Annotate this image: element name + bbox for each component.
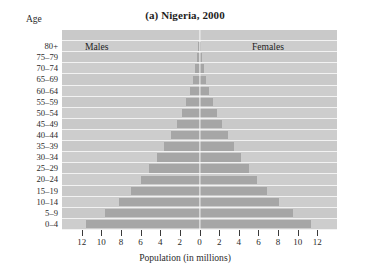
bar-female-60-64: [200, 87, 210, 95]
y-tick-label: 70–74: [0, 63, 58, 74]
x-tick: [317, 230, 318, 236]
x-tick-label: 8: [276, 237, 281, 247]
bar-male-30-34: [157, 153, 199, 161]
chart-title: (a) Nigeria, 2000: [0, 9, 370, 21]
x-tick: [278, 230, 279, 236]
x-tick: [180, 230, 181, 236]
x-tick-label: 6: [138, 237, 143, 247]
bar-female-10-14: [200, 198, 280, 206]
x-axis-title: Population (in millions): [0, 252, 370, 263]
plot-area: [62, 30, 337, 230]
y-tick-label: 20–24: [0, 174, 58, 185]
bar-female-55-59: [200, 98, 214, 106]
y-tick-label: 45–49: [0, 119, 58, 130]
bar-male-15-19: [131, 187, 200, 195]
y-tick-label: 75–79: [0, 52, 58, 63]
y-tick-label: 25–29: [0, 163, 58, 174]
y-axis-tick-labels: 80+75–7970–7465–6960–6455–5950–5445–4940…: [0, 30, 58, 230]
x-tick: [298, 230, 299, 236]
bar-male-25-29: [149, 164, 199, 172]
y-tick-label: 35–39: [0, 141, 58, 152]
y-tick-label: 80+: [0, 41, 58, 52]
bar-female-15-19: [200, 187, 268, 195]
bar-female-50-54: [200, 109, 218, 117]
x-tick-label: 8: [119, 237, 124, 247]
y-tick-label: 55–59: [0, 97, 58, 108]
population-pyramid-figure: (a) Nigeria, 2000 Age 80+75–7970–7465–69…: [0, 0, 370, 279]
x-tick-label: 2: [178, 237, 183, 247]
x-tick: [160, 230, 161, 236]
x-tick-label: 4: [158, 237, 163, 247]
y-tick-label: 30–34: [0, 152, 58, 163]
bar-female-5-9: [200, 209, 293, 217]
x-tick: [239, 230, 240, 236]
bar-female-70-74: [200, 64, 204, 72]
center-axis-line: [199, 30, 200, 230]
y-tick-label: 65–69: [0, 74, 58, 85]
series-label-males: Males: [85, 41, 108, 52]
y-tick-label: 60–64: [0, 86, 58, 97]
x-tick: [82, 230, 83, 236]
bar-female-25-29: [200, 164, 249, 172]
y-tick-label: 40–44: [0, 130, 58, 141]
bar-male-0-4: [86, 220, 200, 228]
bar-female-35-39: [200, 142, 234, 150]
x-tick-label: 12: [313, 237, 322, 247]
bar-male-35-39: [164, 142, 199, 150]
bar-male-55-59: [186, 98, 200, 106]
y-tick-label: 10–14: [0, 197, 58, 208]
x-tick: [141, 230, 142, 236]
x-axis-ticks: [62, 230, 337, 237]
x-tick-label: 2: [217, 237, 222, 247]
bar-male-5-9: [105, 209, 199, 217]
bar-female-65-69: [200, 76, 207, 84]
y-tick-label: 50–54: [0, 108, 58, 119]
y-tick-label: 5–9: [0, 208, 58, 219]
x-tick: [121, 230, 122, 236]
y-axis-title: Age: [26, 14, 42, 24]
bar-male-50-54: [182, 109, 200, 117]
y-tick-label: 15–19: [0, 186, 58, 197]
bar-male-20-24: [141, 176, 200, 184]
x-tick: [219, 230, 220, 236]
x-tick-label: 6: [256, 237, 261, 247]
x-tick: [101, 230, 102, 236]
series-label-females: Females: [252, 41, 284, 52]
x-tick-label: 4: [237, 237, 242, 247]
bar-male-40-44: [171, 131, 199, 139]
x-tick-label: 10: [293, 237, 302, 247]
x-tick: [200, 230, 201, 236]
x-axis-tick-labels: 12108642024681012: [62, 237, 337, 250]
bar-male-45-49: [177, 120, 200, 128]
x-tick-label: 10: [97, 237, 106, 247]
bar-female-45-49: [200, 120, 223, 128]
bar-female-0-4: [200, 220, 312, 228]
x-tick: [258, 230, 259, 236]
x-tick-label: 12: [77, 237, 86, 247]
bar-female-20-24: [200, 176, 258, 184]
bar-male-10-14: [119, 198, 200, 206]
y-tick-label: 0–4: [0, 219, 58, 230]
bar-female-30-34: [200, 153, 241, 161]
bar-female-40-44: [200, 131, 228, 139]
x-tick-label: 0: [197, 237, 202, 247]
